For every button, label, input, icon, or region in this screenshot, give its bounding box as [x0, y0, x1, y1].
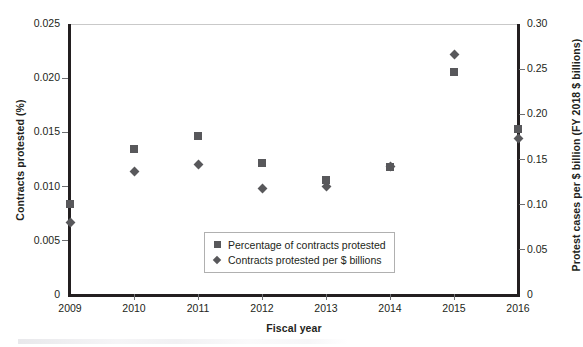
y-tick-label-left: 0.010	[34, 180, 60, 192]
legend-item-per-billion: Contracts protested per $ billions	[211, 252, 386, 267]
square-data-point	[194, 132, 202, 140]
y-tick-label-right: 0	[527, 288, 533, 300]
legend-label-per-billion: Contracts protested per $ billions	[228, 254, 382, 266]
y-tick-right	[519, 159, 525, 160]
y-tick-label-right: 0.10	[527, 198, 547, 210]
x-tick-label: 2016	[493, 302, 543, 314]
x-axis-spine	[68, 294, 520, 297]
x-tick-label: 2013	[301, 302, 351, 314]
x-tick-label: 2010	[109, 302, 159, 314]
x-tick-label: 2012	[237, 302, 287, 314]
y-tick-label-right: 0.15	[527, 153, 547, 165]
x-axis-title: Fiscal year	[70, 322, 518, 334]
x-tick-label: 2014	[365, 302, 415, 314]
y-tick-label-left: 0.020	[34, 71, 60, 83]
y-axis-left-spine	[68, 24, 71, 296]
x-tick	[390, 294, 391, 300]
legend-label-percentage: Percentage of contracts protested	[228, 239, 386, 251]
y-tick-left	[62, 186, 68, 187]
x-tick	[198, 294, 199, 300]
y-tick-right	[519, 249, 525, 250]
y-tick-left	[62, 240, 68, 241]
square-data-point	[130, 145, 138, 153]
y-tick-label-left: 0.005	[34, 234, 60, 246]
chart-legend: Percentage of contracts protested Contra…	[204, 232, 395, 273]
y-tick-label-left: 0	[54, 288, 60, 300]
diamond-marker-icon	[211, 257, 223, 263]
square-data-point	[514, 125, 522, 133]
y-tick-left	[62, 78, 68, 79]
legend-item-percentage: Percentage of contracts protested	[211, 237, 386, 252]
y-tick-right	[519, 204, 525, 205]
chart-figure: Contracts protested (%) Protest cases pe…	[0, 0, 583, 347]
square-data-point	[450, 68, 458, 76]
square-data-point	[258, 159, 266, 167]
square-marker-icon	[211, 241, 223, 248]
y-tick-right	[519, 114, 525, 115]
x-tick	[454, 294, 455, 300]
y-tick-label-left: 0.025	[34, 17, 60, 29]
square-data-point	[66, 200, 74, 208]
page-edge-artifact	[18, 339, 348, 344]
y-tick-right	[519, 69, 525, 70]
y-tick-label-right: 0.25	[527, 62, 547, 74]
x-tick	[326, 294, 327, 300]
y-axis-right-title: Protest cases per $ billion (FY 2018 $ b…	[570, 5, 583, 305]
x-tick-label: 2015	[429, 302, 479, 314]
x-tick-label: 2011	[173, 302, 223, 314]
y-tick-label-left: 0.015	[34, 125, 60, 137]
x-tick	[262, 294, 263, 300]
x-tick-label: 2009	[45, 302, 95, 314]
y-tick-label-right: 0.30	[527, 17, 547, 29]
y-tick-label-right: 0.20	[527, 107, 547, 119]
y-tick-left	[62, 132, 68, 133]
y-axis-left-title: Contracts protested (%)	[14, 20, 28, 300]
y-axis-right-spine	[517, 24, 520, 296]
x-tick	[134, 294, 135, 300]
y-tick-label-right: 0.05	[527, 243, 547, 255]
